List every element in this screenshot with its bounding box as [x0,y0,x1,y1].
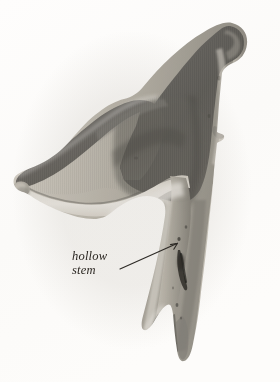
figure-plate: hollow stem [0,0,280,382]
hollow-stem-label-line-2: stem [72,264,107,278]
hollow-stem-label: hollow stem [72,250,107,277]
hollow-stem-label-line-1: hollow [72,250,107,264]
specimen-photograph [0,0,280,382]
